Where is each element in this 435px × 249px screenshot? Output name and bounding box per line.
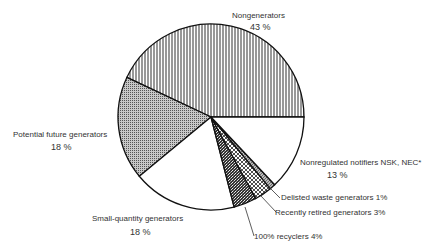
leader-line-delisted	[268, 186, 280, 198]
pct-nonregulated: 13 %	[327, 170, 348, 180]
label-retired: Recently retired generators 3%	[275, 208, 385, 218]
label-recyclers: 100% recyclers 4%	[254, 232, 322, 242]
pct-nongenerators: 43 %	[250, 22, 271, 32]
leader-line-recyclers	[245, 207, 254, 236]
pie-slices	[118, 24, 304, 210]
label-delisted: Delisted waste generators 1%	[281, 193, 387, 203]
label-potential-future: Potential future generators	[13, 130, 107, 140]
pct-potential-future: 18 %	[51, 142, 72, 152]
label-nongenerators: Nongenerators	[232, 11, 285, 21]
label-small-quantity: Small-quantity generators	[92, 214, 183, 224]
leader-line-retired	[261, 196, 276, 212]
pct-small-quantity: 18 %	[130, 227, 151, 237]
label-nonregulated: Nonregulated notifiers NSK, NEC*	[300, 158, 421, 168]
